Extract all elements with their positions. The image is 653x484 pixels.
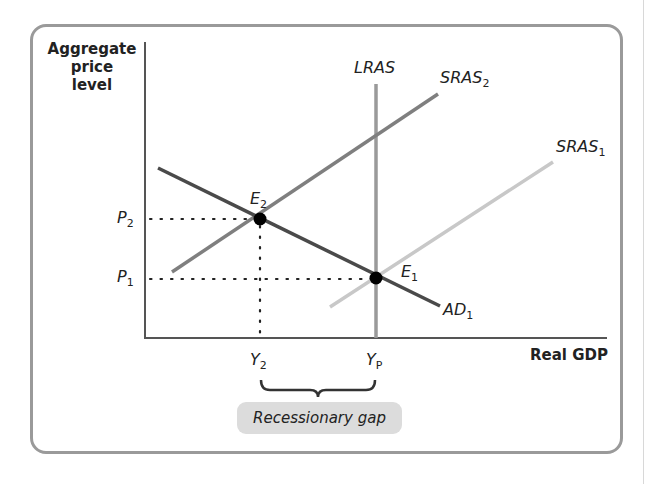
sras2-label: SRAS2 (440, 68, 489, 90)
e1-label-base: E (401, 262, 411, 281)
p1-label-base: P (117, 267, 127, 286)
lras-label: LRAS (354, 58, 395, 77)
e2-label-sub: 2 (260, 198, 267, 211)
yp-label: YP (366, 350, 382, 372)
y2-label-sub: 2 (260, 359, 267, 372)
ad1-label: AD1 (443, 300, 473, 322)
sras1-label-sub: 1 (598, 146, 605, 159)
yp-label-sub: P (376, 359, 383, 372)
p1-label: P1 (117, 267, 134, 289)
p2-label-base: P (117, 208, 127, 227)
y2-label-base: Y (250, 350, 260, 369)
y-axis-title-line: level (46, 76, 138, 94)
p1-label-sub: 1 (127, 276, 134, 289)
e1-label-sub: 1 (411, 271, 418, 284)
e2-point (254, 213, 267, 226)
sras1-label-base: SRAS (556, 137, 598, 156)
e2-label-base: E (250, 189, 260, 208)
e2-label: E2 (250, 189, 267, 211)
ad1-label-base: AD (443, 300, 466, 319)
sras2-label-sub: 2 (482, 77, 489, 90)
e1-label: E1 (401, 262, 418, 284)
gap-bracket (261, 380, 375, 397)
sras2-curve (172, 94, 438, 272)
p2-label: P2 (117, 208, 134, 230)
p2-label-sub: 2 (127, 217, 134, 230)
yp-label-base: Y (366, 350, 376, 369)
sras2-label-base: SRAS (440, 68, 482, 87)
y-axis-title-line: price (46, 58, 138, 76)
e1-point (370, 272, 383, 285)
x-axis-title: Real GDP (530, 346, 608, 364)
ad1-label-sub: 1 (466, 309, 473, 322)
sras1-label: SRAS1 (556, 137, 605, 159)
sras1-curve (330, 162, 553, 307)
y-axis-title-line: Aggregate (46, 40, 138, 58)
y-axis-title: Aggregate price level (46, 40, 138, 94)
y2-label: Y2 (250, 350, 267, 372)
recessionary-gap-label: Recessionary gap (237, 402, 402, 434)
